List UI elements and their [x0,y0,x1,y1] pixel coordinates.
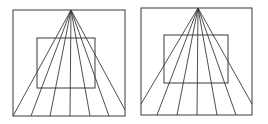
left-illusion-panel [13,10,125,116]
radial-line-right-2 [157,8,198,115]
radial-line-left-1 [13,10,71,116]
radial-line-left-3 [50,10,71,116]
radial-line-left-6 [71,10,109,116]
illusion-figure-root [0,0,268,124]
panels-group [13,8,252,116]
outer-square-right [141,8,252,115]
radial-line-right-1 [141,8,198,104]
radial-line-left-4 [70,10,71,116]
radial-line-right-3 [177,8,198,115]
illusion-figure-svg [0,0,268,124]
radial-line-right-6 [198,8,236,115]
radial-line-left-5 [71,10,90,116]
radial-line-right-4 [197,8,198,115]
right-illusion-panel [141,8,252,115]
inner-square-right [164,35,228,83]
radial-line-left-7 [71,10,125,110]
inner-square-left [37,38,95,88]
outer-square-left [13,10,125,116]
